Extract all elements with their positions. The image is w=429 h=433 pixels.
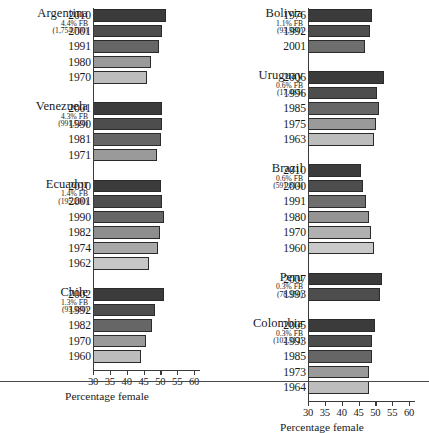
chart-bar (308, 9, 372, 22)
chart-bar (308, 319, 375, 332)
chart-row: 1990 (0, 210, 214, 226)
chart-bar (93, 133, 161, 146)
year-label: 1996 (270, 86, 306, 102)
x-axis-tick (359, 402, 360, 406)
chart-bar (308, 195, 366, 208)
year-label: 1973 (270, 365, 306, 381)
chart-row: 1974 (0, 241, 214, 257)
country-group: Chile1.3% FB(93,380)20021992198219701960 (0, 287, 214, 365)
chart-row: 1976 (215, 8, 429, 24)
chart-row: 1970 (215, 225, 429, 241)
year-label: 2001 (55, 194, 91, 210)
x-axis-tick (392, 402, 393, 406)
year-label: 2002 (55, 287, 91, 303)
year-label: 1990 (55, 210, 91, 226)
x-axis-tick (342, 402, 343, 406)
chart-bar (93, 180, 161, 193)
x-axis-tick (325, 402, 326, 406)
y-axis-line (93, 8, 94, 370)
chart-bar (308, 366, 369, 379)
chart-bar (308, 40, 365, 53)
x-axis-title: Percentage female (0, 390, 214, 402)
chart-row: 1960 (215, 241, 429, 257)
chart-row: 1980 (0, 55, 214, 71)
country-group: Uruguay0.6% FB(17,465)200619961985197519… (215, 70, 429, 148)
chart-row: 1985 (215, 349, 429, 365)
chart-bar (93, 56, 151, 69)
year-label: 1990 (55, 117, 91, 133)
year-label: 1982 (55, 318, 91, 334)
chart-bar (93, 226, 160, 239)
year-label: 1962 (55, 256, 91, 272)
x-axis-tick (127, 371, 128, 375)
year-label: 1975 (270, 117, 306, 133)
chart-bar (308, 335, 372, 348)
year-label: 1991 (55, 39, 91, 55)
year-label: 1993 (270, 287, 306, 303)
year-label: 2001 (55, 101, 91, 117)
chart-bar (93, 304, 155, 317)
chart-row: 2001 (0, 24, 214, 40)
chart-bar (308, 242, 374, 255)
chart-bar (93, 149, 157, 162)
chart-bar (93, 350, 141, 363)
chart-bar (93, 288, 164, 301)
chart-bar (308, 164, 361, 177)
country-group: Venezuela4.3% FB(991,520)200119901981197… (0, 101, 214, 163)
year-label: 1980 (55, 55, 91, 71)
year-label: 1976 (270, 8, 306, 24)
country-group: Brazil0.6% FB(591,814)201020001991198019… (215, 163, 429, 256)
chart-bar (308, 25, 370, 38)
year-label: 2006 (270, 70, 306, 86)
chart-row: 2010 (215, 163, 429, 179)
year-label: 1985 (270, 349, 306, 365)
year-label: 2010 (55, 179, 91, 195)
year-label: 1974 (55, 241, 91, 257)
chart-row: 1993 (215, 287, 429, 303)
chart-row: 1963 (215, 132, 429, 148)
x-axis-tick-label: 60 (397, 407, 421, 418)
chart-row: 1996 (215, 86, 429, 102)
chart-bar (308, 71, 384, 84)
chart-row: 1970 (0, 70, 214, 86)
chart-bar (308, 133, 374, 146)
chart-row: 1970 (0, 334, 214, 350)
country-group: Colombia0.3% FB(102,312)2005199319851973… (215, 318, 429, 396)
year-label: 1991 (270, 194, 306, 210)
chart-bar (308, 381, 369, 394)
chart-row: 2002 (0, 287, 214, 303)
year-label: 2000 (270, 179, 306, 195)
chart-row: 2000 (215, 179, 429, 195)
year-label: 1985 (270, 101, 306, 117)
year-label: 1992 (270, 24, 306, 40)
year-label: 1960 (55, 349, 91, 365)
chart-bar (93, 40, 159, 53)
year-label: 1982 (55, 225, 91, 241)
country-group: Ecuador1.4% FB(195,200)20102001199019821… (0, 179, 214, 272)
chart-bar (93, 9, 166, 22)
x-axis-tick (93, 371, 94, 375)
country-group: Argentina4.4% FB(1,754,700)2010200119911… (0, 8, 214, 86)
chart-bar (308, 350, 372, 363)
chart-bar (308, 87, 377, 100)
chart-bar (93, 335, 146, 348)
year-label: 1970 (270, 225, 306, 241)
chart-row: 1981 (0, 132, 214, 148)
chart-bar (93, 102, 162, 115)
year-label: 2001 (55, 24, 91, 40)
x-axis-tick (375, 402, 376, 406)
chart-row: 1982 (0, 225, 214, 241)
chart-bar (308, 118, 376, 131)
chart-row: 1993 (215, 334, 429, 350)
chart-row: 2006 (215, 70, 429, 86)
year-label: 1981 (55, 132, 91, 148)
chart-row: 1962 (0, 256, 214, 272)
chart-bar (308, 288, 380, 301)
x-axis-tick (177, 371, 178, 375)
year-label: 1971 (55, 148, 91, 164)
chart-row: 1991 (0, 39, 214, 55)
chart-row: 2007 (215, 272, 429, 288)
chart-row: 1990 (0, 117, 214, 133)
chart-bar (308, 273, 382, 286)
chart-row: 2010 (0, 8, 214, 24)
